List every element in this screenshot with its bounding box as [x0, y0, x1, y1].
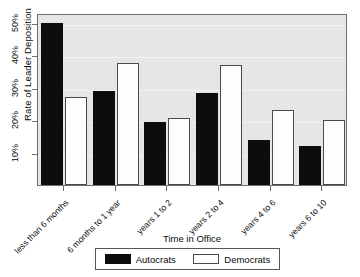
x-tick-mark	[270, 186, 271, 191]
bar-democrats	[65, 97, 87, 185]
y-tick-label: 40%	[10, 40, 20, 70]
plot-area	[37, 14, 347, 186]
legend-swatch-autocrats	[105, 254, 131, 264]
bar-autocrats	[144, 122, 166, 185]
x-tick-mark	[166, 186, 167, 191]
x-tick-mark	[115, 186, 116, 191]
chart-legend: Autocrats Democrats	[95, 248, 280, 270]
x-tick-mark	[321, 186, 322, 191]
y-tick-label: 20%	[10, 105, 20, 135]
bar-democrats	[323, 120, 345, 185]
legend-label-autocrats: Autocrats	[136, 254, 176, 265]
bar-democrats	[220, 65, 242, 185]
legend-label-democrats: Democrats	[224, 254, 270, 265]
y-tick-label: 50%	[10, 8, 20, 38]
grid-line	[38, 25, 346, 26]
grid-line	[38, 57, 346, 58]
bar-democrats	[117, 63, 139, 185]
y-axis-title: Rate of Leader Deposition	[22, 0, 33, 155]
legend-entry-democrats: Democrats	[193, 254, 270, 265]
legend-swatch-democrats	[193, 254, 219, 264]
legend-entry-autocrats: Autocrats	[105, 254, 176, 265]
grid-line	[38, 90, 346, 91]
bar-autocrats	[93, 91, 115, 185]
y-tick-label: 10%	[10, 138, 20, 168]
bar-autocrats	[248, 140, 270, 185]
y-tick-label: 30%	[10, 73, 20, 103]
x-tick-mark	[63, 186, 64, 191]
bar-autocrats	[41, 23, 63, 185]
bar-chart-figure: Rate of Leader Deposition 10%20%30%40%50…	[0, 0, 360, 277]
x-tick-mark	[218, 186, 219, 191]
bar-democrats	[272, 110, 294, 185]
x-axis-title: Time in Office	[37, 233, 347, 244]
bar-autocrats	[196, 93, 218, 185]
bar-autocrats	[299, 146, 321, 185]
bar-democrats	[168, 118, 190, 185]
plot-inner	[38, 15, 346, 185]
